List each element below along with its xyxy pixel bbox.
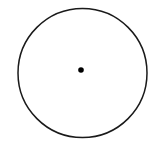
circle-diagram-svg xyxy=(0,0,165,149)
diagram-background xyxy=(0,0,165,149)
figure-canvas: Circle with marked center point xyxy=(0,0,165,149)
center-point-dot xyxy=(78,67,84,73)
